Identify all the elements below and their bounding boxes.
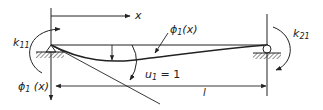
rotation-arc-u1 [130,45,137,80]
k11-label: k11 [13,36,30,50]
left-ground-hatch [36,52,64,58]
phi-axis-label: ϕ1 (x) [18,80,49,94]
right-roller-support [263,45,271,53]
deflected-beam-curve [51,45,268,61]
phi-curve-leader [155,33,168,53]
k21-moment-arc [273,27,290,70]
u1-label: u1 = 1 [145,68,180,82]
tangent-line [51,45,160,104]
length-label: l [203,87,206,98]
k21-label: k21 [293,27,310,41]
right-ground-hatch [253,53,281,59]
beam-diagram: x u1 = 1 ϕ1(x) k11 k21 l ϕ1 (x) [0,0,323,110]
x-axis-label: x [134,9,142,22]
phi-curve-label: ϕ1(x) [170,23,197,37]
